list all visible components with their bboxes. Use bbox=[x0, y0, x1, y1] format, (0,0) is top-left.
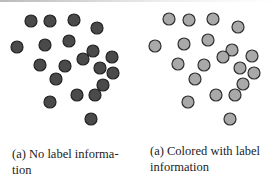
data-point bbox=[44, 96, 56, 108]
data-point bbox=[71, 89, 83, 101]
data-point bbox=[149, 40, 161, 52]
caption-line-2: tion bbox=[12, 162, 130, 178]
data-point bbox=[178, 38, 190, 50]
data-point bbox=[224, 113, 236, 125]
scatter-diagram bbox=[0, 0, 275, 135]
data-point bbox=[59, 60, 71, 72]
data-point bbox=[94, 62, 106, 74]
data-point bbox=[87, 45, 99, 57]
data-point bbox=[106, 51, 118, 63]
data-point bbox=[44, 15, 56, 27]
data-point bbox=[97, 79, 109, 91]
data-point bbox=[63, 35, 75, 47]
data-point bbox=[50, 73, 62, 85]
data-point bbox=[229, 89, 241, 101]
caption-line-1: (a) Colored with label bbox=[150, 143, 275, 159]
data-point bbox=[237, 78, 249, 90]
data-point bbox=[198, 59, 210, 71]
data-point bbox=[202, 34, 214, 46]
caption-line-2: information bbox=[150, 159, 275, 175]
data-point bbox=[11, 41, 23, 53]
data-point bbox=[25, 15, 37, 27]
data-point bbox=[182, 96, 194, 108]
panel-colored-label bbox=[149, 13, 260, 125]
caption-no-label: (a) No label informa- tion bbox=[12, 146, 130, 178]
data-point bbox=[89, 89, 101, 101]
panel-no-label bbox=[11, 14, 119, 125]
data-point bbox=[163, 13, 175, 25]
data-point bbox=[246, 50, 258, 62]
data-point bbox=[183, 14, 195, 26]
caption-colored-label: (a) Colored with label information bbox=[150, 143, 275, 175]
data-point bbox=[172, 58, 184, 70]
data-point bbox=[34, 59, 46, 71]
data-point bbox=[85, 113, 97, 125]
data-point bbox=[210, 89, 222, 101]
data-point bbox=[68, 14, 80, 26]
data-point bbox=[248, 67, 260, 79]
data-point bbox=[77, 53, 89, 65]
data-point bbox=[207, 13, 219, 25]
data-point bbox=[189, 73, 201, 85]
data-point bbox=[217, 51, 229, 63]
data-point bbox=[234, 62, 246, 74]
caption-line-1: (a) No label informa- bbox=[12, 146, 130, 162]
data-point bbox=[107, 67, 119, 79]
data-point bbox=[39, 39, 51, 51]
data-point bbox=[232, 21, 244, 33]
data-point bbox=[91, 22, 103, 34]
